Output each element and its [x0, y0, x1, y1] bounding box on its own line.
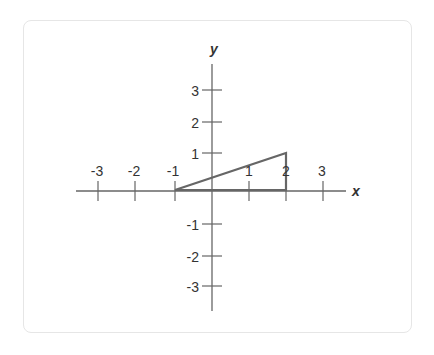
- x-tick-label: 3: [318, 163, 326, 179]
- x-axis-label: x: [351, 183, 361, 199]
- x-tick-label: -1: [167, 163, 180, 179]
- y-tick-label: -2: [187, 249, 200, 265]
- y-tick-label: 2: [191, 115, 199, 131]
- x-tick-label: 1: [245, 163, 253, 179]
- y-axis-label: y: [209, 41, 219, 57]
- x-tick-label: 2: [282, 163, 290, 179]
- coordinate-plane: -3 -2 -1 1 2 3 3 2 1 -1 -2 -3 x y: [0, 0, 434, 355]
- y-tick-label: -3: [187, 279, 200, 295]
- x-tick-label: -2: [128, 163, 141, 179]
- y-tick-label: 3: [191, 83, 199, 99]
- y-tick-label: 1: [191, 146, 199, 162]
- y-tick-label: -1: [187, 217, 200, 233]
- x-tick-label: -3: [91, 163, 104, 179]
